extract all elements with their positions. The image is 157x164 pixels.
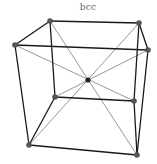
cube-edge-line — [50, 21, 139, 23]
corner-atom-top-back-right — [136, 20, 142, 26]
corner-atom-bottom-front-right — [134, 152, 140, 158]
corner-atom-top-front-left — [12, 42, 18, 48]
cube-edge-line — [15, 21, 50, 45]
corner-atom-bottom-back-right — [131, 98, 137, 104]
cube-edge-line — [139, 23, 148, 50]
corner-atom-bottom-back-left — [52, 94, 58, 100]
corner-atom-top-front-right — [145, 47, 151, 53]
cube-edge-line — [134, 23, 139, 101]
cube-edge-line — [15, 45, 29, 145]
cube-edge-line — [50, 21, 55, 97]
corner-atom-top-back-left — [47, 18, 53, 24]
unit-cell-drawing — [0, 0, 157, 164]
cube-edges — [15, 21, 148, 155]
cube-edge-line — [137, 50, 148, 155]
cube-edge-line — [55, 97, 134, 101]
corner-atom-bottom-front-left — [26, 142, 32, 148]
body-diagonal-line — [55, 50, 148, 97]
center-atom — [85, 77, 90, 82]
body-diagonal-line — [50, 21, 137, 155]
cube-edge-line — [15, 45, 148, 50]
bcc-unit-cell-diagram: bcc — [0, 0, 157, 164]
body-diagonal-line — [15, 45, 134, 101]
cube-edge-line — [29, 145, 137, 155]
cube-edge-line — [134, 101, 137, 155]
body-diagonal-line — [29, 23, 139, 145]
